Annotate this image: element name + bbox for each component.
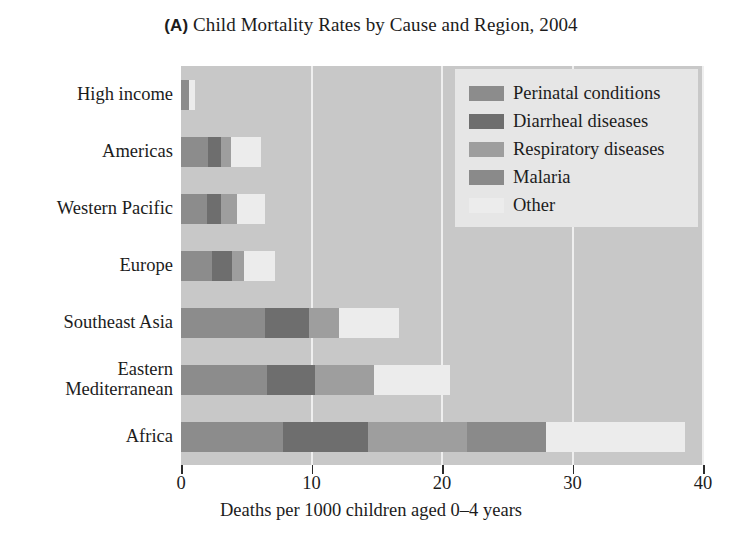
- y-axis-label: Western Pacific: [0, 199, 173, 218]
- bar-segment[interactable]: [339, 308, 399, 338]
- bar-segment[interactable]: [181, 80, 189, 110]
- legend-label: Malaria: [513, 168, 571, 186]
- bar-segment[interactable]: [212, 251, 232, 281]
- x-tick-label: 20: [433, 473, 452, 494]
- legend-label: Other: [513, 196, 555, 214]
- legend-label: Perinatal conditions: [513, 84, 660, 102]
- bar-segment[interactable]: [368, 422, 467, 452]
- y-axis-label-line: Europe: [0, 256, 173, 275]
- bar-row[interactable]: [181, 422, 703, 452]
- bar-segment[interactable]: [207, 194, 221, 224]
- bar-segment[interactable]: [181, 137, 208, 167]
- bar-segment[interactable]: [315, 365, 374, 395]
- y-axis-label-line: Eastern: [0, 360, 173, 380]
- y-axis-label-line: Western Pacific: [0, 199, 173, 218]
- legend-item[interactable]: Respiratory diseases: [455, 135, 698, 163]
- x-tick-label: 10: [302, 473, 321, 494]
- y-axis-label: Southeast Asia: [0, 313, 173, 332]
- legend-item[interactable]: Other: [455, 191, 698, 219]
- bar-segment[interactable]: [231, 137, 261, 167]
- y-axis-label: EasternMediterranean: [0, 360, 173, 399]
- legend-swatch: [469, 142, 504, 157]
- y-axis-label-line: Mediterranean: [0, 380, 173, 400]
- chart-title-text: Child Mortality Rates by Cause and Regio…: [193, 14, 578, 35]
- bar-segment[interactable]: [374, 365, 450, 395]
- x-tick-label: 30: [563, 473, 582, 494]
- bar-segment[interactable]: [267, 365, 315, 395]
- y-axis-label: Americas: [0, 142, 173, 161]
- legend-item[interactable]: Diarrheal diseases: [455, 107, 698, 135]
- panel-letter: (A): [164, 16, 188, 35]
- bar-segment[interactable]: [208, 137, 221, 167]
- bar-segment[interactable]: [232, 251, 244, 281]
- y-axis-label-line: High income: [0, 85, 173, 104]
- bar-segment[interactable]: [189, 80, 196, 110]
- x-tick-label: 40: [694, 473, 713, 494]
- bar-segment[interactable]: [221, 194, 237, 224]
- bar-segment[interactable]: [309, 308, 339, 338]
- bar-segment[interactable]: [244, 251, 275, 281]
- legend-label: Respiratory diseases: [513, 140, 665, 158]
- legend-label: Diarrheal diseases: [513, 112, 648, 130]
- bar-segment[interactable]: [467, 422, 547, 452]
- y-axis-label-line: Americas: [0, 142, 173, 161]
- y-axis-label: High income: [0, 85, 173, 104]
- chart-root: (A) Child Mortality Rates by Cause and R…: [0, 0, 742, 553]
- x-tick-label: 0: [176, 473, 185, 494]
- bar-segment[interactable]: [181, 194, 207, 224]
- legend-item[interactable]: Malaria: [455, 163, 698, 191]
- bar-segment[interactable]: [265, 308, 309, 338]
- bar-segment[interactable]: [181, 365, 267, 395]
- legend-swatch: [469, 170, 504, 185]
- bar-segment[interactable]: [221, 137, 230, 167]
- legend-swatch: [469, 114, 504, 129]
- bar-segment[interactable]: [181, 251, 212, 281]
- bar-segment[interactable]: [546, 422, 684, 452]
- y-axis-label-line: Southeast Asia: [0, 313, 173, 332]
- bar-segment[interactable]: [283, 422, 368, 452]
- y-axis-labels: High incomeAmericasWestern PacificEurope…: [0, 66, 173, 465]
- bar-row[interactable]: [181, 365, 703, 395]
- legend: Perinatal conditionsDiarrheal diseasesRe…: [455, 69, 698, 227]
- legend-swatch: [469, 86, 504, 101]
- y-axis-label: Europe: [0, 256, 173, 275]
- legend-item[interactable]: Perinatal conditions: [455, 79, 698, 107]
- bar-segment[interactable]: [237, 194, 264, 224]
- x-axis-title: Deaths per 1000 children aged 0–4 years: [0, 500, 742, 521]
- bar-segment[interactable]: [181, 308, 265, 338]
- y-axis-label: Africa: [0, 427, 173, 446]
- bar-row[interactable]: [181, 308, 703, 338]
- y-axis-label-line: Africa: [0, 427, 173, 446]
- bar-segment[interactable]: [181, 422, 283, 452]
- bar-row[interactable]: [181, 251, 703, 281]
- chart-title: (A) Child Mortality Rates by Cause and R…: [0, 14, 742, 36]
- legend-swatch: [469, 198, 504, 213]
